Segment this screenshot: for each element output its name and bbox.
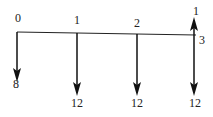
period-label-3: 3 xyxy=(199,34,205,46)
arrow-period-3-down xyxy=(190,35,198,96)
period-label-0: 0 xyxy=(15,12,21,24)
amount-label-2: 12 xyxy=(131,97,143,109)
period-label-1: 1 xyxy=(74,14,80,26)
diagram-canvas xyxy=(0,0,213,117)
time-axis xyxy=(17,32,196,35)
amount-label-3-down: 12 xyxy=(189,97,201,109)
cash-flow-diagram: 0 1 2 3 8 12 12 1 12 xyxy=(0,0,213,117)
arrow-period-3-up xyxy=(190,17,198,35)
period-label-2: 2 xyxy=(134,17,140,29)
arrow-period-1-down xyxy=(73,33,81,96)
arrow-period-2-down xyxy=(133,34,141,96)
amount-label-3-up: 1 xyxy=(193,5,199,17)
amount-label-0: 8 xyxy=(13,78,19,90)
arrow-period-0-down xyxy=(13,32,21,82)
amount-label-1: 12 xyxy=(71,97,83,109)
